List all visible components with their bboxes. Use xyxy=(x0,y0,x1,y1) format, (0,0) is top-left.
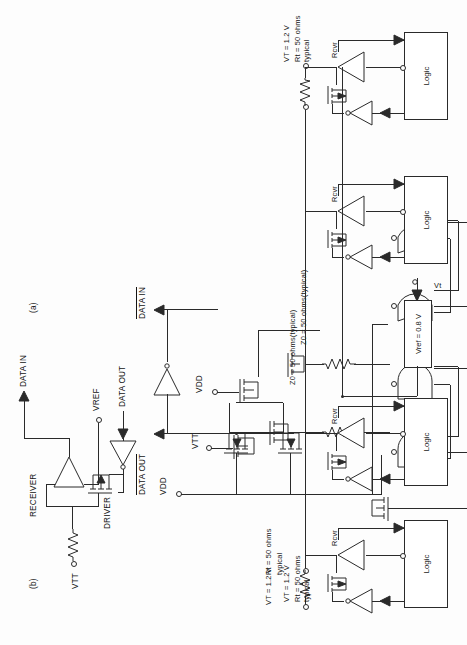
wire-rcvr4-down xyxy=(336,555,337,573)
inv4-arrow-icon xyxy=(380,596,391,607)
wire-rcvr1-down xyxy=(336,67,337,85)
bus-vt-bottom-text: VT = 1.2 V xyxy=(283,565,290,602)
vref-junction-dot xyxy=(341,395,344,398)
bus-bottom-vt-terminal xyxy=(303,604,309,610)
bus-trunk-line xyxy=(305,110,306,570)
wire-rcvr4-vref-in xyxy=(366,555,404,556)
wire-rcvr4-out-up xyxy=(338,528,339,540)
wire-rcvr3-vref-in xyxy=(366,433,404,434)
wire-rcvr1-vref-in xyxy=(366,67,404,68)
rcvr-amplifier-4-icon xyxy=(336,538,366,572)
logic-block-2-label: Logic xyxy=(422,210,431,229)
wire-rcvr2-down xyxy=(336,211,337,229)
vref-source-block: Vref = 0.8 V xyxy=(404,300,432,368)
logic-block-3-label: Logic xyxy=(422,432,431,451)
rcvr3-vref-terminal xyxy=(400,431,406,437)
rcvr-amplifier-2-icon xyxy=(336,194,366,228)
bus-top-resistor-icon xyxy=(298,78,312,106)
wire-vref-distribution xyxy=(342,67,343,396)
wire-bus-to-rcvr4 xyxy=(305,555,336,556)
logic-block-1: Logic xyxy=(404,32,448,120)
bus-rt-bottom-text2: typical xyxy=(303,580,310,602)
vref-source-label: Vref = 0.8 V xyxy=(414,314,423,354)
vt-node-label: Vt xyxy=(434,282,441,289)
schematic-page: (b) VTT RECEIVER DATA IN VREF DRIVER xyxy=(0,0,467,645)
logic-block-4-label: Logic xyxy=(422,554,431,573)
rcvr-amplifier-3-icon xyxy=(336,416,366,450)
wire-drv3-gate-h xyxy=(332,479,344,480)
wire-bus-to-rcvr3 xyxy=(305,433,336,434)
wire-vref-down xyxy=(417,366,418,396)
wire-rcvr1-out-up xyxy=(338,40,339,52)
rcvr2-vref-terminal xyxy=(400,209,406,215)
wire-drv4-gate-h xyxy=(332,601,344,602)
bus-z0-text: Z0 = 50 ohms(typical) xyxy=(289,310,296,385)
rcvr4-vref-terminal xyxy=(400,553,406,559)
wire-bus-to-rcvr1 xyxy=(305,67,336,68)
bus-top-vt-terminal xyxy=(303,63,309,69)
logic-block-4: Logic xyxy=(404,520,448,608)
rcvr4-arrow-icon xyxy=(394,523,405,534)
bus-rt-top-text: Rt = 50 ohms xyxy=(294,15,301,62)
bus-vt-top-text: VT = 1.2 V xyxy=(283,25,290,62)
wire-vref-bus xyxy=(342,396,417,397)
logic-block-3: Logic xyxy=(404,398,448,486)
bus-rt-bottom-text: Rt = 50 ohms xyxy=(294,555,301,602)
inv1-arrow-icon xyxy=(380,108,391,119)
logic-block-1-label: Logic xyxy=(422,66,431,85)
bus-top-res-stub xyxy=(305,68,306,78)
wire-rcvr3-down xyxy=(336,433,337,451)
wire-rcvr2-out-up xyxy=(338,184,339,196)
vt-arrow-icon xyxy=(412,290,423,302)
rcvr2-arrow-icon xyxy=(394,179,405,190)
rcvr-amplifier-1-icon xyxy=(336,50,366,84)
inv3-arrow-icon xyxy=(380,474,391,485)
wire-rcvr2-vref-in xyxy=(366,211,404,212)
rcvr3-arrow-icon xyxy=(394,401,405,412)
inv2-arrow-icon xyxy=(380,252,391,263)
wire-rcvr3-out-up xyxy=(338,406,339,418)
wire-bus-to-rcvr2 xyxy=(305,211,336,212)
bus-rt-top-text2: typical xyxy=(303,40,310,62)
rcvr1-arrow-icon xyxy=(394,35,405,46)
rcvr1-vref-terminal xyxy=(400,65,406,71)
logic-block-2: Logic xyxy=(404,176,448,264)
bus-topology-group: VT = 1.2 V Rt = 50 ohms typical VT = 1.2… xyxy=(0,0,467,645)
